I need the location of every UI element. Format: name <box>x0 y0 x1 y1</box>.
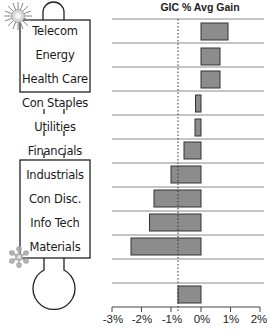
bar-energy <box>201 48 220 65</box>
bar-con-staples <box>196 95 202 112</box>
sector-label-con-disc: Con Disc. <box>0 192 110 206</box>
sector-label-con-staples: Con Staples <box>0 96 110 110</box>
sector-label-industrials: Industrials <box>0 168 110 182</box>
tick-label: -3% <box>98 313 128 325</box>
bar-telecom <box>201 23 228 40</box>
bar-info-tech <box>150 214 202 231</box>
chart-title: GIC % Avg Gain <box>130 1 270 13</box>
sector-label-info-tech: Info Tech <box>0 216 110 230</box>
tick-label: 0% <box>187 313 217 325</box>
bar-health-care <box>201 71 220 88</box>
tick-label: 1% <box>216 313 246 325</box>
bar-utilities <box>195 119 201 136</box>
tick-label: -1% <box>157 313 187 325</box>
bar-financials <box>184 142 201 159</box>
sector-label-utilities: Utilities <box>0 120 110 134</box>
tick-label: 2% <box>244 313 270 325</box>
gic-thermometer-chart: GIC % Avg Gain Telecom Energy Health Car… <box>0 0 270 335</box>
sector-label-health-care: Health Care <box>0 72 110 86</box>
sector-label-energy: Energy <box>0 48 110 62</box>
sector-label-financials: Financials <box>0 144 110 158</box>
bar-industrials <box>171 166 201 183</box>
bar-materials <box>131 238 201 255</box>
tick-label: -2% <box>127 313 157 325</box>
sector-label-telecom: Telecom <box>0 24 110 38</box>
bar-average <box>178 286 201 303</box>
x-axis <box>112 307 260 312</box>
sector-label-materials: Materials <box>0 240 110 254</box>
